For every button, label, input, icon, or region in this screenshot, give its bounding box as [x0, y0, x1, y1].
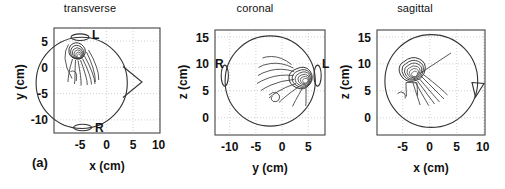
xtick-transverse-0: -5 — [75, 138, 86, 152]
ytick-transverse-0: 5 — [41, 35, 48, 49]
ytick-sagittal-0: 15 — [358, 31, 372, 45]
ytick-coronal-2: 5 — [202, 84, 209, 98]
xtick-coronal-0: -10 — [221, 140, 239, 154]
axes-frame-sagittal — [377, 30, 485, 135]
xtick-sagittal-3: 10 — [476, 140, 490, 154]
ylabel-coronal: z (cm) — [176, 65, 190, 100]
marker-label-R-transverse: R — [95, 121, 104, 135]
contour-map-sagittal — [398, 53, 452, 106]
ytick-coronal-0: 15 — [196, 31, 210, 45]
ytick-transverse-2: -5 — [37, 87, 48, 101]
ylabel-sagittal: z (cm) — [338, 65, 352, 100]
axes-frame-transverse — [54, 28, 160, 133]
ytick-sagittal-3: 0 — [364, 111, 371, 125]
grid-transverse — [54, 28, 160, 133]
figure-panel-label: (a) — [32, 155, 48, 170]
plot-transverse: L R — [0, 0, 180, 189]
head-outline-transverse — [36, 37, 127, 128]
xtick-sagittal-2: 5 — [453, 140, 460, 154]
ytick-coronal-1: 10 — [196, 57, 210, 71]
panel-coronal: coronal R L — [165, 0, 345, 189]
xtick-transverse-3: 10 — [152, 138, 166, 152]
xlabel-transverse: x (cm) — [89, 159, 124, 173]
xtick-coronal-3: 5 — [305, 140, 312, 154]
plot-coronal: R L 15 — [165, 0, 345, 189]
xtick-coronal-2: 0 — [279, 140, 286, 154]
plot-sagittal: 15 10 5 0 -5 0 5 10 x (cm) z (cm) — [325, 0, 505, 189]
figure-container: transverse L R — [0, 0, 505, 189]
contour-map-transverse — [65, 43, 99, 86]
xtick-coronal-1: -5 — [251, 140, 262, 154]
ytick-coronal-3: 0 — [202, 111, 209, 125]
xlabel-coronal: y (cm) — [252, 161, 287, 175]
ytick-sagittal-2: 5 — [364, 84, 371, 98]
ylabel-transverse: y (cm) — [13, 64, 27, 99]
panel-transverse: transverse L R — [0, 0, 180, 189]
marker-label-R-coronal: R — [215, 57, 224, 71]
grid-sagittal — [377, 30, 485, 135]
xtick-transverse-2: 5 — [130, 138, 137, 152]
xtick-sagittal-1: 0 — [426, 140, 433, 154]
xlabel-sagittal: x (cm) — [413, 161, 448, 175]
xtick-sagittal-0: -5 — [397, 140, 408, 154]
panel-sagittal: sagittal — [325, 0, 505, 189]
xtick-transverse-1: 0 — [103, 138, 110, 152]
ytick-transverse-1: 0 — [41, 61, 48, 75]
ytick-sagittal-1: 10 — [358, 57, 372, 71]
head-outline-coronal — [225, 36, 315, 126]
marker-label-L-transverse: L — [92, 28, 99, 42]
ytick-transverse-3: -10 — [31, 113, 49, 127]
